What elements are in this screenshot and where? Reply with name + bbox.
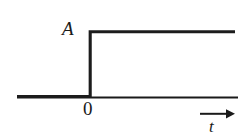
step-function-figure: A 0 t <box>0 0 243 135</box>
amplitude-label: A <box>62 19 74 38</box>
time-axis-label: t <box>209 118 214 135</box>
plot-canvas <box>0 0 243 135</box>
right-arrow-icon <box>200 109 235 118</box>
origin-label: 0 <box>83 99 93 118</box>
step-function-curve <box>17 32 235 97</box>
